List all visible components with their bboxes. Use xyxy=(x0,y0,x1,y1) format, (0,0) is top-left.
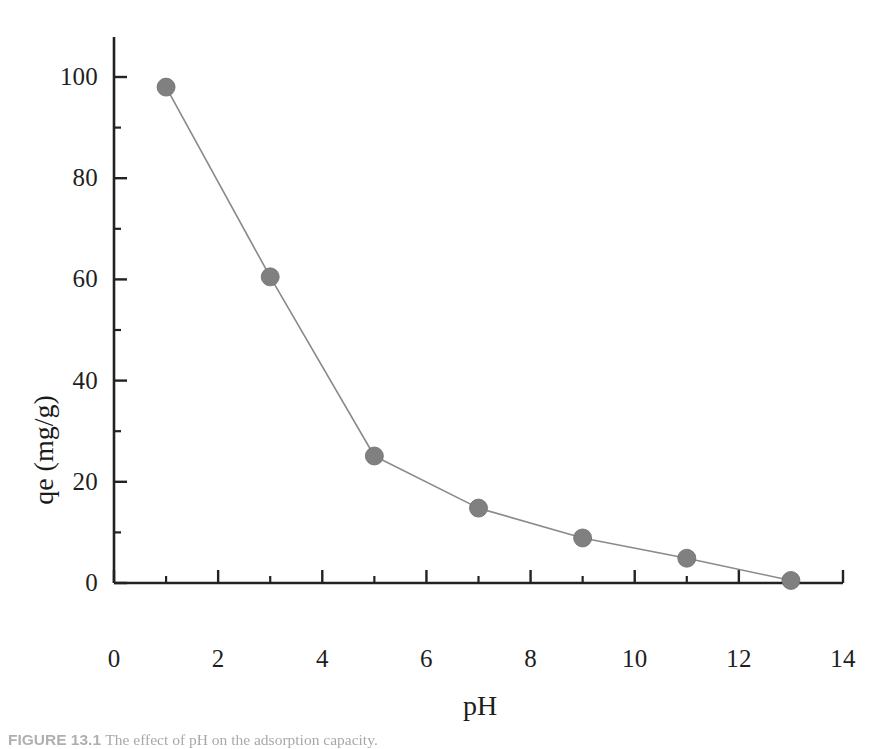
figure-caption-label: FIGURE 13.1 xyxy=(8,731,101,748)
x-axis-tick-label: 6 xyxy=(420,645,433,673)
y-axis-tick-label: 0 xyxy=(40,569,98,597)
x-axis-tick-label: 2 xyxy=(212,645,225,673)
data-point-marker xyxy=(261,268,279,286)
figure-caption-text: The effect of pH on the adsorption capac… xyxy=(105,731,377,748)
x-axis-tick-label: 14 xyxy=(830,645,855,673)
y-axis-tick-label: 100 xyxy=(40,63,98,91)
y-axis-tick-label: 80 xyxy=(40,164,98,192)
data-point-marker xyxy=(365,447,383,465)
data-series-group xyxy=(157,78,800,589)
y-axis-tick-label: 60 xyxy=(40,265,98,293)
x-axis-tick-label: 8 xyxy=(524,645,537,673)
data-point-marker xyxy=(470,499,488,517)
figure-caption: FIGURE 13.1 The effect of pH on the adso… xyxy=(8,731,868,749)
data-point-marker xyxy=(782,571,800,589)
x-axis-title: pH xyxy=(463,690,497,722)
y-axis-title: qe (mg/g) xyxy=(28,330,60,570)
x-axis-tick-label: 10 xyxy=(622,645,647,673)
data-point-marker xyxy=(574,529,592,547)
x-axis-tick-label: 12 xyxy=(726,645,751,673)
x-axis-tick-label: 4 xyxy=(316,645,329,673)
x-axis-tick-label: 0 xyxy=(108,645,121,673)
data-point-marker xyxy=(157,78,175,96)
data-point-marker xyxy=(678,549,696,567)
